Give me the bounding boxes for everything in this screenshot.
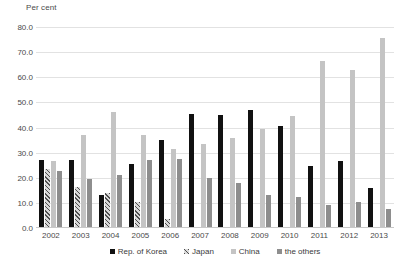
bar-rep-of-korea: [308, 166, 313, 228]
bar-the-others: [177, 159, 182, 228]
bar-group-2003: [66, 27, 96, 228]
bar-rep-of-korea: [159, 140, 164, 228]
bar-china: [380, 38, 385, 228]
bar-china: [350, 70, 355, 228]
x-axis-tick-label: 2005: [125, 229, 155, 243]
legend-swatch-japan: [184, 249, 189, 254]
x-axis-tick-labels: 2002200320042005200620072008200920102011…: [36, 229, 394, 243]
bar-the-others: [236, 183, 241, 228]
y-axis-tick-label: 0.0: [3, 224, 33, 233]
bar-china: [290, 116, 295, 228]
bar-group-2005: [125, 27, 155, 228]
bar-china: [81, 135, 86, 228]
y-axis-tick-label: 20.0: [3, 173, 33, 182]
x-axis-tick-label: 2008: [215, 229, 245, 243]
y-axis-tick-label: 50.0: [3, 98, 33, 107]
bar-rep-of-korea: [248, 110, 253, 228]
x-axis-tick-label: 2011: [304, 229, 334, 243]
bar-china: [201, 144, 206, 228]
bar-rep-of-korea: [39, 160, 44, 228]
legend-item-label: Rep. of Korea: [118, 247, 167, 256]
bar-group-2007: [185, 27, 215, 228]
bar-rep-of-korea: [189, 114, 194, 228]
bar-groups: [36, 27, 394, 228]
y-axis-tick-label: 80.0: [3, 23, 33, 32]
legend-swatch-rep-of-korea: [110, 249, 115, 254]
bar-the-others: [326, 205, 331, 228]
bar-japan: [105, 193, 110, 228]
bar-group-2004: [96, 27, 126, 228]
legend-item-japan[interactable]: Japan: [184, 247, 214, 256]
x-axis-tick-label: 2007: [185, 229, 215, 243]
legend-item-label: the others: [285, 247, 321, 256]
x-axis-tick-label: 2010: [275, 229, 305, 243]
legend-item-label: China: [239, 247, 260, 256]
chart-legend: Rep. of KoreaJapanChinathe others: [36, 244, 394, 258]
bar-rep-of-korea: [69, 160, 74, 228]
bar-rep-of-korea: [278, 126, 283, 228]
bar-rep-of-korea: [99, 195, 104, 228]
bar-group-2012: [334, 27, 364, 228]
bar-group-2013: [364, 27, 394, 228]
y-axis-tick-label: 10.0: [3, 198, 33, 207]
y-axis-tick-label: 40.0: [3, 123, 33, 132]
plot-area: [36, 27, 394, 228]
legend-item-the-others[interactable]: the others: [277, 247, 321, 256]
bar-the-others: [356, 202, 361, 228]
legend-item-rep-of-korea[interactable]: Rep. of Korea: [110, 247, 167, 256]
bar-the-others: [87, 179, 92, 228]
x-axis-tick-label: 2009: [245, 229, 275, 243]
x-axis-line: [36, 227, 394, 228]
legend-item-label: Japan: [192, 247, 214, 256]
bar-china: [51, 161, 56, 228]
legend-swatch-china: [231, 249, 236, 254]
bar-rep-of-korea: [129, 164, 134, 228]
bar-chart: Per cent 0.010.020.030.040.050.060.070.0…: [0, 0, 403, 261]
y-axis-tick-label: 70.0: [3, 48, 33, 57]
x-axis-tick-label: 2004: [96, 229, 126, 243]
x-axis-tick-label: 2002: [36, 229, 66, 243]
bar-china: [111, 112, 116, 228]
bar-china: [260, 129, 265, 228]
y-axis-tick-label: 30.0: [3, 148, 33, 157]
bar-group-2009: [245, 27, 275, 228]
bar-china: [230, 138, 235, 228]
y-axis-title: Per cent: [26, 3, 57, 12]
bar-china: [171, 149, 176, 228]
x-axis-tick-label: 2006: [155, 229, 185, 243]
bar-rep-of-korea: [218, 115, 223, 228]
bar-group-2011: [304, 27, 334, 228]
bar-china: [141, 135, 146, 228]
bar-the-others: [296, 197, 301, 228]
x-axis-tick-label: 2003: [66, 229, 96, 243]
y-axis-tick-labels: 0.010.020.030.040.050.060.070.080.0: [0, 27, 33, 228]
bar-the-others: [386, 209, 391, 228]
bar-the-others: [117, 175, 122, 228]
bar-china: [320, 61, 325, 228]
x-axis-tick-label: 2012: [334, 229, 364, 243]
bar-group-2006: [155, 27, 185, 228]
bar-group-2002: [36, 27, 66, 228]
bar-the-others: [266, 195, 271, 228]
bar-rep-of-korea: [368, 188, 373, 228]
bar-japan: [75, 187, 80, 228]
bar-rep-of-korea: [338, 161, 343, 228]
bar-group-2008: [215, 27, 245, 228]
y-axis-tick-label: 60.0: [3, 73, 33, 82]
x-axis-tick-label: 2013: [364, 229, 394, 243]
legend-item-china[interactable]: China: [231, 247, 260, 256]
bar-japan: [135, 202, 140, 228]
bar-japan: [45, 169, 50, 228]
legend-swatch-the-others: [277, 249, 282, 254]
bar-the-others: [57, 171, 62, 228]
bar-the-others: [207, 178, 212, 228]
bar-the-others: [147, 160, 152, 228]
bar-group-2010: [275, 27, 305, 228]
